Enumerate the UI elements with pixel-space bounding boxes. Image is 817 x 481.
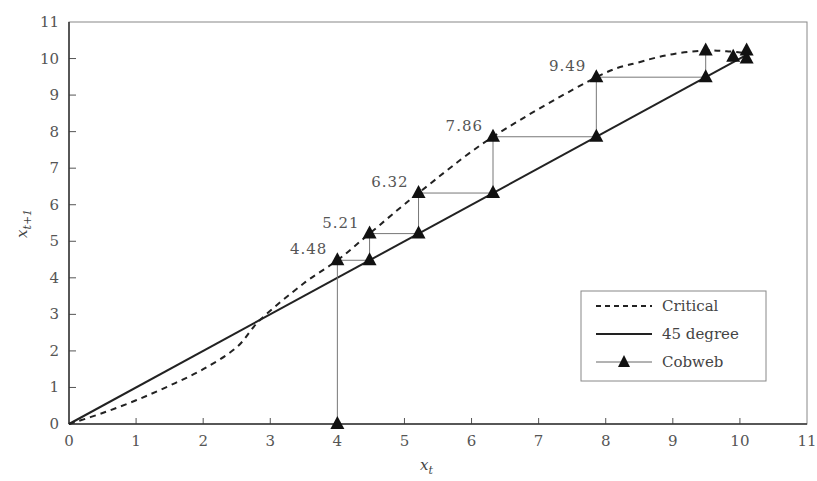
y-tick-label: 9 xyxy=(49,86,59,104)
x-axis: 01234567891011 xyxy=(64,418,816,450)
y-tick-label: 3 xyxy=(49,305,59,323)
legend-label: Cobweb xyxy=(662,353,723,371)
value-annotation: 6.32 xyxy=(371,173,408,191)
value-annotation: 7.86 xyxy=(446,117,483,135)
triangle-marker-icon xyxy=(589,129,603,142)
x-tick-label: 7 xyxy=(534,432,544,450)
x-tick-label: 11 xyxy=(797,432,816,450)
x-tick-label: 6 xyxy=(467,432,477,450)
y-tick-label: 5 xyxy=(49,232,59,250)
value-annotation: 4.48 xyxy=(290,240,327,258)
triangle-marker-icon xyxy=(699,43,713,56)
legend-label: 45 degree xyxy=(662,325,739,343)
x-tick-label: 1 xyxy=(131,432,141,450)
y-tick-label: 7 xyxy=(49,159,59,177)
value-annotation: 5.21 xyxy=(322,214,359,232)
triangle-marker-icon xyxy=(699,69,713,82)
triangle-marker-icon xyxy=(412,185,426,198)
legend: Critical 45 degree Cobweb xyxy=(581,291,766,381)
y-tick-label: 1 xyxy=(49,378,59,396)
x-tick-label: 5 xyxy=(400,432,410,450)
x-tick-label: 2 xyxy=(198,432,208,450)
x-tick-label: 4 xyxy=(333,432,343,450)
x-axis-title: xt xyxy=(420,456,433,477)
y-tick-label: 4 xyxy=(49,269,59,287)
triangle-marker-icon xyxy=(740,43,754,56)
x-tick-label: 9 xyxy=(668,432,678,450)
y-tick-label: 11 xyxy=(40,13,59,31)
y-tick-label: 0 xyxy=(49,415,59,433)
value-annotation: 9.49 xyxy=(549,57,586,75)
y-tick-label: 2 xyxy=(49,342,59,360)
x-tick-label: 0 xyxy=(64,432,74,450)
x-tick-label: 10 xyxy=(730,432,749,450)
cobweb-chart: 01234567891011 01234567891011 4.485.216.… xyxy=(0,0,817,481)
triangle-marker-icon xyxy=(363,252,377,265)
triangle-marker-icon xyxy=(486,185,500,198)
triangle-marker-icon xyxy=(412,226,426,239)
annotations: 4.485.216.327.869.49 xyxy=(290,57,586,258)
y-tick-label: 8 xyxy=(49,123,59,141)
x-tick-label: 3 xyxy=(265,432,275,450)
triangle-marker-icon xyxy=(330,416,344,429)
x-tick-label: 8 xyxy=(601,432,611,450)
legend-label: Critical xyxy=(662,297,719,315)
y-tick-label: 10 xyxy=(40,50,59,68)
triangle-marker-icon xyxy=(363,226,377,239)
y-axis: 01234567891011 xyxy=(40,13,76,433)
triangle-marker-icon xyxy=(330,252,344,265)
triangle-marker-icon xyxy=(486,129,500,142)
y-tick-label: 6 xyxy=(49,196,59,214)
y-axis-title: xt+1 xyxy=(13,209,34,238)
